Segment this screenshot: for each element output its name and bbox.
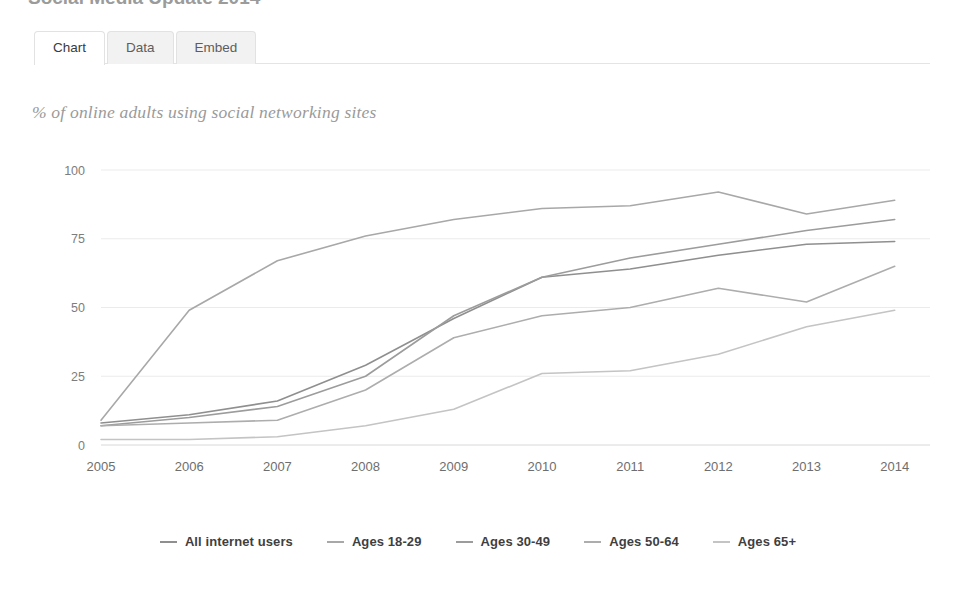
chart-legend: All internet usersAges 18-29Ages 30-49Ag…	[0, 534, 956, 549]
tab-data[interactable]: Data	[107, 31, 174, 64]
page-root: Social Media Update 2014 ChartDataEmbed …	[0, 0, 956, 600]
y-axis-tick-label: 100	[64, 164, 85, 178]
series-line	[101, 310, 895, 439]
x-axis-tick-label: 2012	[704, 459, 733, 474]
series-line	[101, 192, 895, 420]
legend-item[interactable]: Ages 30-49	[456, 534, 551, 549]
y-axis-tick-label: 75	[71, 232, 85, 246]
page-title: Social Media Update 2014	[28, 0, 728, 5]
chart-area: 0255075100200520062007200820092010201120…	[0, 150, 956, 505]
legend-label: Ages 65+	[738, 534, 796, 549]
legend-item[interactable]: Ages 65+	[713, 534, 796, 549]
x-axis-tick-label: 2013	[792, 459, 821, 474]
legend-line-icon	[456, 541, 473, 543]
x-axis-tick-label: 2011	[616, 459, 644, 474]
legend-label: Ages 18-29	[352, 534, 422, 549]
legend-line-icon	[327, 541, 344, 543]
legend-line-icon	[584, 541, 601, 543]
chart-subtitle: % of online adults using social networki…	[32, 102, 377, 123]
x-axis-tick-label: 2009	[439, 459, 468, 474]
y-axis-tick-label: 0	[78, 439, 85, 453]
series-line	[101, 266, 895, 426]
x-axis-tick-label: 2010	[527, 459, 556, 474]
legend-item[interactable]: Ages 50-64	[584, 534, 679, 549]
legend-label: Ages 30-49	[481, 534, 551, 549]
tab-embed[interactable]: Embed	[176, 31, 257, 64]
x-axis-tick-label: 2007	[263, 459, 292, 474]
x-axis-tick-label: 2014	[880, 459, 909, 474]
tab-bar: ChartDataEmbed	[34, 30, 930, 64]
x-axis-tick-label: 2006	[175, 459, 204, 474]
tab-list: ChartDataEmbed	[34, 30, 930, 64]
legend-label: Ages 50-64	[609, 534, 679, 549]
y-axis-tick-label: 25	[71, 370, 85, 384]
x-axis-tick-label: 2008	[351, 459, 380, 474]
page-header-strip: Social Media Update 2014	[28, 0, 728, 14]
series-line	[101, 242, 895, 424]
legend-item[interactable]: Ages 18-29	[327, 534, 422, 549]
legend-line-icon	[713, 541, 730, 543]
x-axis-tick-label: 2005	[87, 459, 116, 474]
legend-label: All internet users	[185, 534, 293, 549]
line-chart: 0255075100200520062007200820092010201120…	[0, 150, 956, 505]
legend-item[interactable]: All internet users	[160, 534, 293, 549]
y-axis-tick-label: 50	[71, 301, 85, 315]
legend-line-icon	[160, 541, 177, 543]
tab-chart[interactable]: Chart	[34, 31, 105, 65]
series-line	[101, 220, 895, 426]
